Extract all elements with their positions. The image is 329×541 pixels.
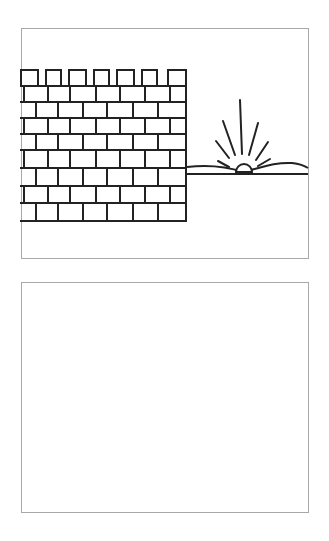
empty-panel: Empty panel bbox=[21, 282, 309, 513]
brick-wall bbox=[21, 70, 186, 221]
rising-sun-icon bbox=[216, 100, 270, 172]
empty-panel-label: Empty panel bbox=[22, 283, 23, 284]
